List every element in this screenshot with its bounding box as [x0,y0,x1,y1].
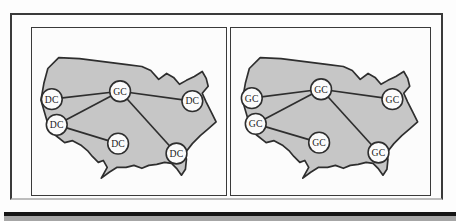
figure-canvas: DCDCGCDCDCDC GCGCGCGCGCGC [0,0,456,221]
node-label: GC [113,86,127,97]
map-layer [41,58,216,179]
us-map-right: GCGCGCGCGCGC [231,28,430,195]
node-label: DC [185,95,199,106]
node-label: DC [170,148,184,159]
network-node-left-3: DC [182,91,203,112]
node-label: DC [45,94,59,105]
network-node-left-2: GC [110,81,131,102]
node-label: GC [385,94,399,105]
network-node-right-4: GC [309,132,330,153]
network-node-left-1: DC [46,114,67,135]
node-label: GC [245,93,259,104]
network-node-left-4: DC [108,133,129,154]
node-label: DC [111,138,125,149]
us-map-outline [41,58,216,179]
partial-next-element-bar [4,212,456,221]
node-label: GC [372,147,386,158]
node-label: GC [249,118,263,129]
network-node-right-1: GC [245,113,266,134]
left-map-panel: DCDCGCDCDCDC [31,27,227,196]
network-node-left-5: DC [166,143,187,164]
network-node-right-2: GC [311,79,332,100]
network-node-right-3: GC [382,89,403,110]
node-label: DC [50,119,64,130]
right-map-panel: GCGCGCGCGCGC [230,27,431,196]
node-label: GC [314,84,328,95]
network-node-right-0: GC [241,88,262,109]
network-node-right-5: GC [368,142,389,163]
us-map-left: DCDCGCDCDCDC [32,28,226,195]
node-label: GC [312,137,326,148]
network-node-left-0: DC [41,89,62,110]
